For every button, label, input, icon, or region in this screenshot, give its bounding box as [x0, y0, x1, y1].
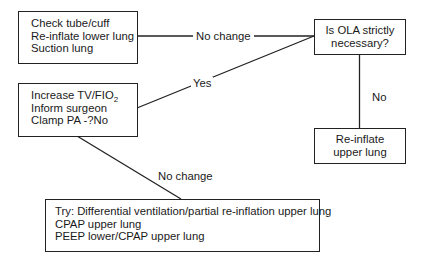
edge-ola-to-increase — [137, 36, 314, 108]
node-text: Re-inflate — [315, 133, 405, 146]
node-text: Inform surgeon — [31, 102, 137, 115]
node-text: upper lung — [315, 146, 405, 159]
node-ola-decision: Is OLA strictly necessary? — [314, 19, 406, 55]
edge-label-no-change-bottom: No change — [158, 170, 213, 182]
node-text: Re-inflate lower lung — [31, 30, 137, 43]
node-text: Check tube/cuff — [31, 17, 137, 30]
node-check-tube: Check tube/cuff Re-inflate lower lung Su… — [18, 11, 138, 64]
node-text: Suction lung — [31, 42, 137, 55]
node-text: Clamp PA -?No — [31, 114, 137, 127]
edge-label-no: No — [372, 91, 386, 103]
node-text: CPAP upper lung — [55, 218, 319, 231]
node-text: necessary? — [315, 37, 405, 50]
node-try-options: Try: Differential ventilation/partial re… — [45, 199, 320, 252]
node-text: Try: Differential ventilation/partial re… — [55, 205, 319, 218]
node-text: PEEP lower/CPAP upper lung — [55, 230, 319, 243]
edge-increase-to-try — [77, 136, 181, 199]
node-text: Is OLA strictly — [315, 24, 405, 37]
edge-label-yes: Yes — [191, 77, 213, 89]
node-reinflate-upper: Re-inflate upper lung — [314, 128, 406, 164]
node-increase-tv: Increase TV/FIO2 Inform surgeon Clamp PA… — [18, 83, 138, 137]
node-text-main: Increase TV/FIO — [31, 89, 114, 101]
node-text: Increase TV/FIO2 — [31, 89, 137, 102]
edge-label-no-change-top: No change — [193, 30, 254, 42]
subscript: 2 — [114, 95, 118, 104]
